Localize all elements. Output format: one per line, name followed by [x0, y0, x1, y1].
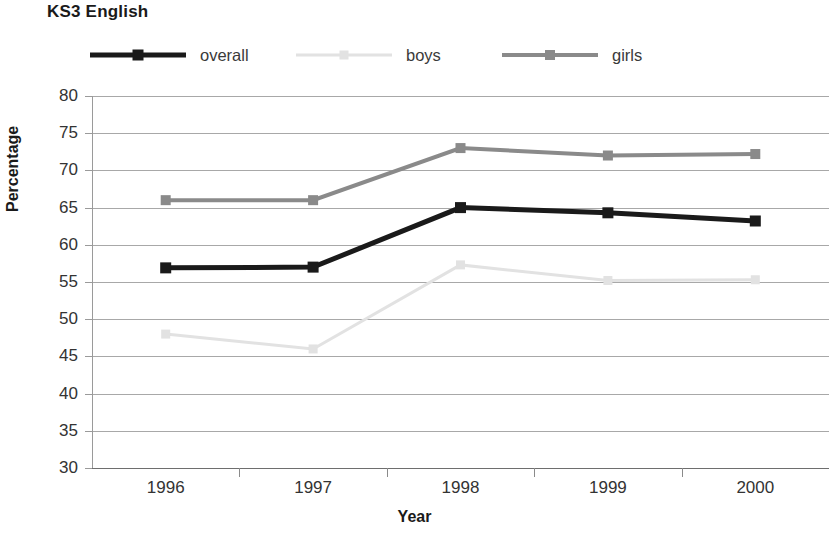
series-line-overall: [166, 208, 756, 268]
chart-container: KS3 English overallboysgirls Percentage …: [0, 0, 829, 533]
data-point-marker: [751, 275, 760, 284]
series-line-boys: [166, 265, 756, 349]
series-boys: [161, 260, 760, 353]
data-point-marker: [603, 151, 613, 161]
x-axis-title: Year: [0, 508, 829, 526]
data-point-marker: [750, 149, 760, 159]
data-point-marker: [160, 262, 171, 273]
data-point-marker: [455, 202, 466, 213]
data-point-marker: [456, 143, 466, 153]
data-point-marker: [602, 207, 613, 218]
data-point-marker: [750, 215, 761, 226]
data-point-marker: [308, 195, 318, 205]
series-girls: [161, 143, 761, 205]
data-point-marker: [603, 276, 612, 285]
data-point-marker: [309, 344, 318, 353]
data-point-marker: [456, 260, 465, 269]
series-layer: [0, 0, 829, 533]
data-point-marker: [161, 195, 171, 205]
data-point-marker: [161, 330, 170, 339]
series-line-girls: [166, 148, 756, 200]
data-point-marker: [308, 262, 319, 273]
